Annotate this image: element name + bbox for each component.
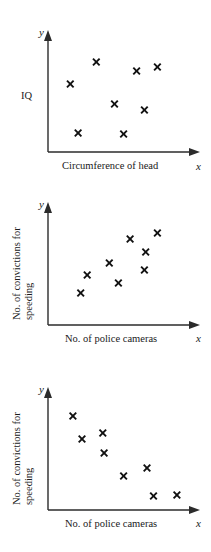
scatter-chart-positive-correlation: y x No. of convictions for speeding No. … [0,185,211,370]
data-point-marker [77,290,84,297]
data-point-marker [84,272,91,279]
data-point-marker [79,436,86,443]
chart-3-x-axis-title: No. of police cameras [65,518,157,529]
data-point-marker [154,230,161,237]
chart-2-points [77,230,160,297]
data-point-marker [154,64,161,71]
chart-2-y-axis-title-line-2: speeding [23,282,34,320]
data-point-marker [127,236,134,243]
data-point-marker [144,465,151,472]
data-point-marker [141,267,148,274]
chart-1-points [67,59,161,138]
chart-3-x-axis-letter: x [195,517,201,529]
chart-2-y-axis-arrow [44,202,52,213]
data-point-marker [93,59,100,66]
scatter-chart-negative-correlation: y x No. of convictions for speeding No. … [0,370,211,552]
data-point-marker [120,473,127,480]
data-point-marker [133,68,140,75]
data-point-marker [75,130,82,137]
chart-3-x-axis-arrow [189,506,200,514]
data-point-marker [111,101,118,108]
data-point-marker [150,493,157,500]
chart-1-y-axis-arrow [44,30,52,41]
data-point-marker [115,280,122,287]
data-point-marker [67,81,74,88]
data-point-marker [70,413,77,420]
chart-3-y-axis-arrow [44,387,52,398]
chart-2-canvas: y x No. of convictions for speeding No. … [0,185,211,370]
chart-1-x-axis-title: Circumference of head [62,160,159,171]
chart-3-canvas: y x No. of convictions for speeding No. … [0,370,211,552]
chart-1-y-axis-letter: y [38,26,44,38]
scatter-chart-iq-vs-head: y x IQ Circumference of head [0,0,211,185]
chart-2-y-axis-title-line-1: No. of convictions for [11,227,22,320]
chart-3-y-axis-title-line-1: No. of convictions for [11,412,22,505]
data-point-marker [142,249,149,256]
chart-2-x-axis-arrow [189,321,200,329]
chart-2-x-axis-title: No. of police cameras [65,333,157,344]
data-point-marker [120,131,127,138]
data-point-marker [106,260,113,267]
chart-2-y-axis-letter: y [38,198,44,210]
chart-1-y-axis-title: IQ [21,90,32,101]
data-point-marker [101,450,108,457]
data-point-marker [141,107,148,114]
data-point-marker [100,430,107,437]
chart-1-x-axis-letter: x [195,160,201,172]
chart-2-x-axis-letter: x [195,332,201,344]
data-point-marker [174,492,181,499]
chart-3-y-axis-letter: y [38,383,44,395]
chart-3-points [70,413,181,500]
chart-3-y-axis-title-line-2: speeding [23,467,34,505]
chart-1-x-axis-arrow [189,148,200,156]
chart-1-canvas: y x IQ Circumference of head [0,0,211,185]
